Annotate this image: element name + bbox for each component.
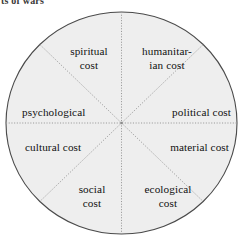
segment-label-social-line1: social bbox=[57, 183, 127, 197]
segment-label-cultural-line1: cultural cost bbox=[25, 141, 121, 155]
segment-label-material: material cost bbox=[133, 141, 229, 155]
segment-label-humanitarian-line1: humanitar- bbox=[125, 45, 209, 59]
segment-label-political: political cost bbox=[133, 106, 231, 120]
segment-label-social: social cost bbox=[57, 183, 127, 210]
segment-label-spiritual: spiritual cost bbox=[51, 45, 127, 72]
caption-fragment: ts of wars bbox=[1, 0, 121, 6]
segment-label-ecological: ecological cost bbox=[125, 183, 211, 210]
segment-label-ecological-line2: cost bbox=[125, 197, 211, 211]
segment-label-political-line1: political cost bbox=[133, 106, 231, 120]
segment-label-psychological-line1: psychological bbox=[22, 106, 120, 120]
segment-label-humanitarian: humanitar- ian cost bbox=[125, 45, 209, 72]
segment-label-humanitarian-line2: ian cost bbox=[125, 59, 209, 73]
costs-of-wars-wheel: spiritual cost humanitar- ian cost psych… bbox=[5, 11, 238, 235]
segment-label-material-line1: material cost bbox=[133, 141, 229, 155]
wheel-center-point bbox=[120, 122, 123, 125]
segment-label-spiritual-line2: cost bbox=[51, 59, 127, 73]
segment-label-ecological-line1: ecological bbox=[125, 183, 211, 197]
segment-label-spiritual-line1: spiritual bbox=[51, 45, 127, 59]
segment-label-social-line2: cost bbox=[57, 197, 127, 211]
segment-label-cultural: cultural cost bbox=[25, 141, 121, 155]
segment-label-psychological: psychological bbox=[22, 106, 120, 120]
